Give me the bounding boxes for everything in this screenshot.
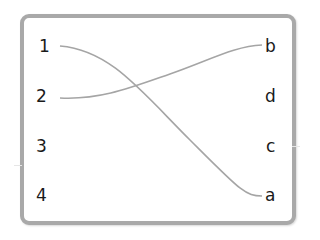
left-item-1[interactable]: 1 xyxy=(39,36,50,56)
left-item-4[interactable]: 4 xyxy=(36,185,47,205)
right-item-c[interactable]: c xyxy=(266,136,275,156)
right-item-a[interactable]: a xyxy=(265,185,275,205)
right-item-d[interactable]: d xyxy=(265,86,276,106)
connection-line-1-a xyxy=(60,46,262,196)
right-item-b[interactable]: b xyxy=(265,36,276,56)
left-item-3[interactable]: 3 xyxy=(36,136,47,156)
left-item-2[interactable]: 2 xyxy=(36,86,47,106)
